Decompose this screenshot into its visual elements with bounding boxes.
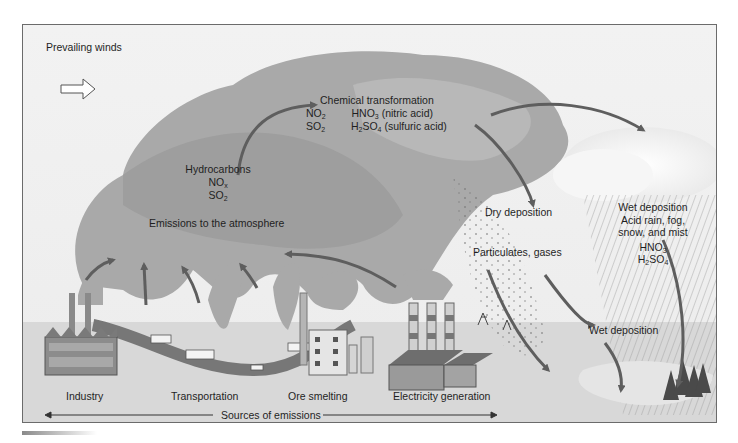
chemical-transformation-heading: Chemical transformation [320, 94, 434, 106]
wet-deposition-ground-label: Wet deposition [589, 324, 658, 336]
diagram-frame: Prevailing winds Chemical transformation… [22, 24, 717, 423]
source-transportation-label: Transportation [171, 390, 238, 402]
sources-caption: Sources of emissions [221, 409, 321, 421]
source-electricity-label: Electricity generation [393, 390, 490, 402]
source-ore-smelting-label: Ore smelting [288, 390, 348, 402]
prevailing-winds-label: Prevailing winds [46, 41, 122, 53]
emitted-gases-list: Hydrocarbons NOx SO2 [178, 163, 258, 202]
emissions-label: Emissions to the atmosphere [149, 217, 284, 229]
footer-accent-bar [22, 431, 97, 435]
dry-deposition-label: Dry deposition [485, 206, 552, 218]
wet-deposition-box: Wet deposition Acid rain, fog, snow, and… [608, 201, 698, 266]
reaction-no2: NO2 HNO3 (nitric acid) [306, 107, 433, 119]
source-industry-label: Industry [66, 390, 103, 402]
particulates-label: Particulates, gases [473, 246, 562, 258]
reaction-so2: SO2 H2SO4 (sulfuric acid) [306, 120, 447, 132]
